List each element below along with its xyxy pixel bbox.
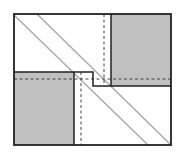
bottom-left-block — [14, 72, 74, 145]
quilt-block-diagram — [0, 0, 178, 156]
top-right-block — [111, 14, 171, 86]
